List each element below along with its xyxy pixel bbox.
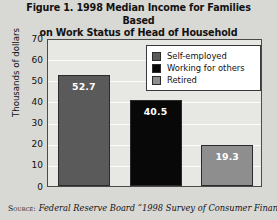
source-label: Source: — [8, 204, 36, 213]
legend-swatch-icon — [152, 64, 161, 73]
figure-title-line-1: Figure 1. 1998 Median Income for Familie… — [10, 2, 267, 27]
legend-item-retired[interactable]: Retired — [152, 74, 255, 86]
source-text: Federal Reserve Board “1998 Survey of Co… — [36, 203, 277, 213]
bar-value-label: 19.3 — [215, 146, 239, 161]
bar-value-label: 52.7 — [72, 76, 96, 91]
y-axis-tick-50: 50 — [14, 77, 43, 86]
y-axis-tick-20: 20 — [14, 140, 43, 149]
y-axis-tick-70: 70 — [14, 35, 43, 44]
y-axis-tick-labels: 706050403020100 — [14, 39, 43, 187]
bar-value-label: 40.5 — [144, 101, 168, 116]
y-axis-tick-10: 10 — [14, 161, 43, 170]
legend-item-label: Working for others — [167, 64, 245, 73]
legend-swatch-icon — [152, 52, 161, 61]
y-axis-tick-0: 0 — [14, 183, 43, 192]
chart-legend: Self-employedWorking for othersRetired — [146, 45, 261, 91]
source-note: Source: Federal Reserve Board “1998 Surv… — [8, 203, 274, 214]
figure-title: Figure 1. 1998 Median Income for Familie… — [10, 2, 267, 40]
legend-item-label: Retired — [167, 76, 197, 85]
figure-title-line-2: on Work Status of Head of Household — [10, 27, 267, 40]
bar-self-employed[interactable]: 52.7 — [58, 75, 110, 186]
y-axis-tick-40: 40 — [14, 98, 43, 107]
legend-item-working-for-others[interactable]: Working for others — [152, 62, 255, 74]
legend-swatch-icon — [152, 76, 161, 85]
legend-item-self-employed[interactable]: Self-employed — [152, 50, 255, 62]
y-axis-tick-60: 60 — [14, 56, 43, 65]
chart-plot-area: 52.740.519.3 Self-employedWorking for ot… — [47, 39, 262, 187]
legend-item-label: Self-employed — [167, 52, 227, 61]
bar-working-for-others[interactable]: 40.5 — [130, 100, 182, 186]
y-axis-tick-30: 30 — [14, 119, 43, 128]
bar-retired[interactable]: 19.3 — [201, 145, 253, 186]
